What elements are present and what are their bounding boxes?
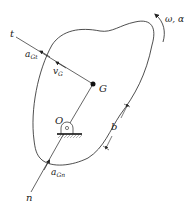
- v-g-arrow: [57, 63, 66, 69]
- label-g: G: [99, 83, 107, 94]
- rigid-body-diagram: t aGt vG G O b ω, α aGn n: [0, 0, 194, 207]
- label-o: O: [55, 115, 63, 126]
- label-a-gn: aGn: [51, 167, 65, 178]
- label-v-g: vG: [53, 66, 63, 77]
- label-n: n: [26, 192, 32, 203]
- label-a-gt: aGt: [25, 49, 38, 60]
- label-b: b: [111, 121, 117, 132]
- body-outline: [33, 21, 154, 165]
- center-of-mass-dot: [91, 82, 96, 87]
- g-to-o-line: [67, 84, 93, 128]
- label-omega-alpha: ω, α: [165, 14, 184, 24]
- label-t: t: [10, 28, 15, 39]
- tangent-axis-line: [16, 37, 93, 84]
- rotation-arrow: [156, 15, 164, 42]
